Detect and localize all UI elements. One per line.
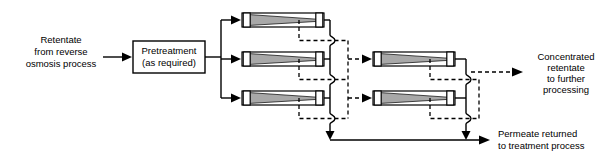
pretreatment-label: Pretreatment (as required): [142, 45, 197, 68]
stage1-module-2: [242, 52, 324, 66]
diagram-canvas: Retentate from reverse osmosis process P…: [0, 0, 614, 154]
retentate-outlet-label: Concentrated retentate to further proces…: [537, 51, 594, 95]
arrow-right-icon: [231, 55, 241, 64]
inlet-label-line-1: Retentate: [40, 34, 81, 45]
permeate-outlet-label: Permeate returned to treatment process: [498, 128, 585, 151]
inlet-label-line-2: from reverse: [34, 46, 87, 57]
inlet-label: Retentate from reverse osmosis process: [26, 34, 97, 69]
process-flow-diagram: Retentate from reverse osmosis process P…: [0, 0, 614, 154]
stage2-permeate-collector: [455, 59, 471, 140]
stage1-module-3: [242, 91, 324, 105]
arrow-down-icon: [326, 131, 335, 140]
retentate-outlet-arrow: [471, 68, 523, 77]
permeate-label-line-1: Permeate returned: [498, 128, 577, 139]
retentate-label-line-3: to further: [547, 73, 585, 84]
arrow-right-icon: [479, 136, 490, 145]
arrow-down-icon: [462, 131, 471, 140]
pretreatment-label-line-1: Pretreatment: [142, 45, 197, 56]
arrow-right-icon: [362, 55, 372, 64]
stage2-retentate-collector: [430, 59, 479, 119]
retentate-label-line-1: Concentrated: [537, 51, 594, 62]
inlet-label-line-3: osmosis process: [26, 58, 97, 69]
permeate-label-line-2: to treatment process: [498, 140, 585, 151]
feed-manifold: [205, 16, 241, 103]
inlet-arrow: [103, 53, 132, 62]
stage1-module-1: [242, 13, 324, 27]
stage2-module-1: [373, 52, 455, 66]
arrow-right-icon: [512, 68, 523, 77]
arrow-right-icon: [362, 94, 372, 103]
arrow-right-icon: [231, 94, 241, 103]
retentate-label-line-4: processing: [543, 84, 589, 95]
retentate-label-line-2: retentate: [547, 62, 585, 73]
stage2-feed-arrows: [348, 55, 372, 103]
stage2-module-2: [373, 91, 455, 105]
pretreatment-label-line-2: (as required): [142, 57, 196, 68]
arrow-right-icon: [122, 53, 132, 62]
arrow-right-icon: [231, 16, 241, 25]
